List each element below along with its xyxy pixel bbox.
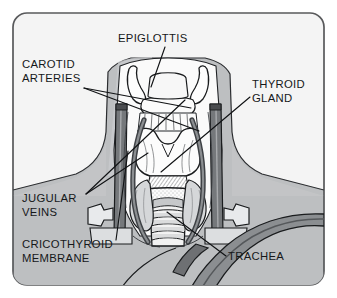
label-carotid-arteries-line-1: CAROTID [22, 58, 75, 70]
label-carotid-arteries-line-2: ARTERIES [22, 72, 81, 84]
tracheal-rings [150, 205, 186, 246]
neck-anatomy-illustration: EPIGLOTTISCAROTIDARTERIESTHYROIDGLANDJUG… [0, 0, 337, 298]
anatomy-figure: EPIGLOTTISCAROTIDARTERIESTHYROIDGLANDJUG… [0, 0, 337, 298]
label-jugular-veins-line-2: VEINS [22, 206, 58, 218]
label-thyroid-gland-line-2: GLAND [252, 92, 292, 104]
epiglottis-cartilage [148, 73, 188, 99]
label-thyroid-gland-line-1: THYROID [252, 78, 305, 90]
label-carotid-arteries: CAROTIDARTERIES [22, 58, 81, 84]
label-jugular-veins-line-1: JUGULAR [22, 192, 77, 204]
label-cricothyroid-membrane-line-1: CRICOTHYROID [22, 238, 113, 250]
label-epiglottis: EPIGLOTTIS [118, 32, 188, 44]
label-trachea: TRACHEA [228, 250, 284, 262]
label-epiglottis-line-1: EPIGLOTTIS [118, 32, 188, 44]
label-trachea-line-1: TRACHEA [228, 250, 284, 262]
label-cricothyroid-membrane-line-2: MEMBRANE [22, 252, 90, 264]
